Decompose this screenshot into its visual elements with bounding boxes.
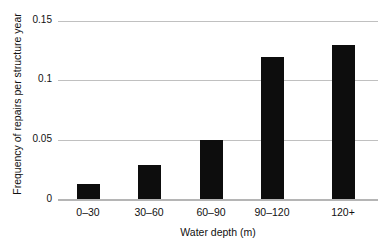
bar-120-plus — [332, 45, 355, 199]
bar-60-90 — [200, 140, 223, 199]
y-tick-label-0.1: 0.1 — [6, 74, 52, 84]
x-tick-label-90-120: 90–120 — [232, 206, 312, 219]
x-axis-line — [58, 199, 378, 201]
x-axis-title: Water depth (m) — [58, 226, 378, 238]
gridline-0.15 — [58, 21, 378, 22]
bar-90-120 — [261, 57, 284, 199]
y-tick-label-0.05: 0.05 — [6, 134, 52, 144]
gridline-0.10 — [58, 80, 378, 81]
y-tick-label-0: 0 — [6, 194, 52, 204]
y-axis-tick-labels: 0.15 0.1 0.05 0 — [0, 0, 52, 246]
x-tick-label-120-plus: 120+ — [303, 206, 383, 219]
bar-chart-figure: Frequency of repairs per structure year … — [0, 0, 384, 246]
bar-30-60 — [138, 165, 161, 199]
bar-0-30 — [77, 184, 100, 199]
plot-area — [58, 21, 378, 199]
y-tick-label-0.15: 0.15 — [6, 15, 52, 25]
